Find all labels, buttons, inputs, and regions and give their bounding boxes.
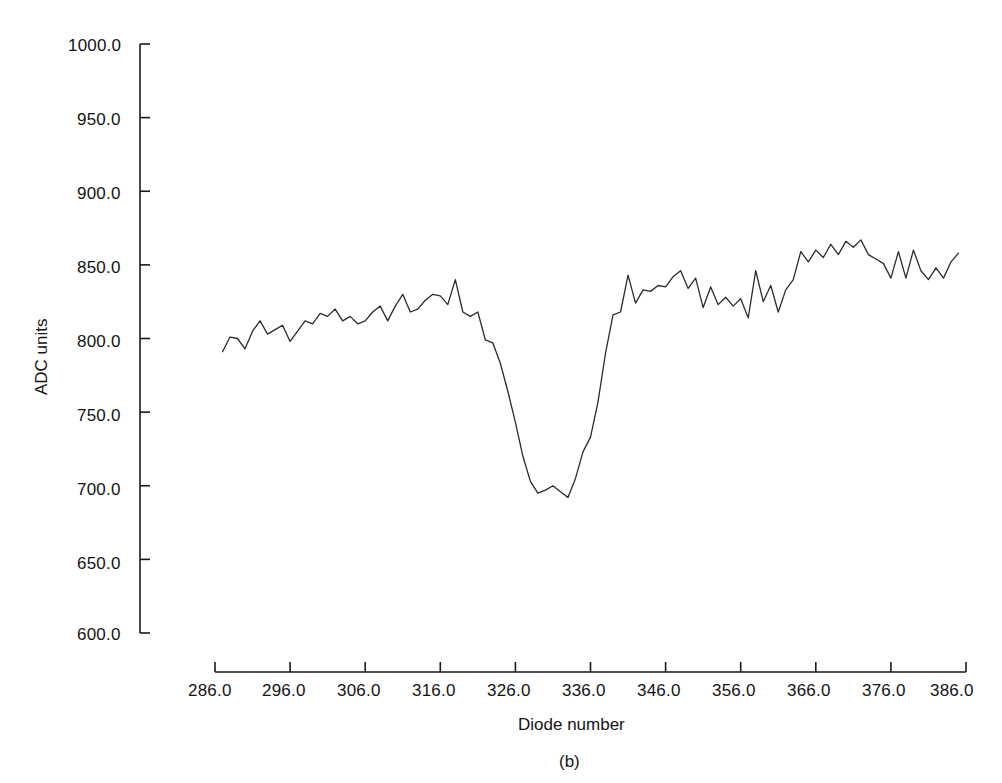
data-trace-line bbox=[223, 240, 959, 498]
y-tick-marks bbox=[140, 44, 150, 633]
plot-area bbox=[0, 0, 1002, 783]
figure-panel: 1000.0 950.0 900.0 850.0 800.0 750.0 700… bbox=[0, 0, 1002, 783]
x-tick-marks bbox=[215, 662, 966, 672]
